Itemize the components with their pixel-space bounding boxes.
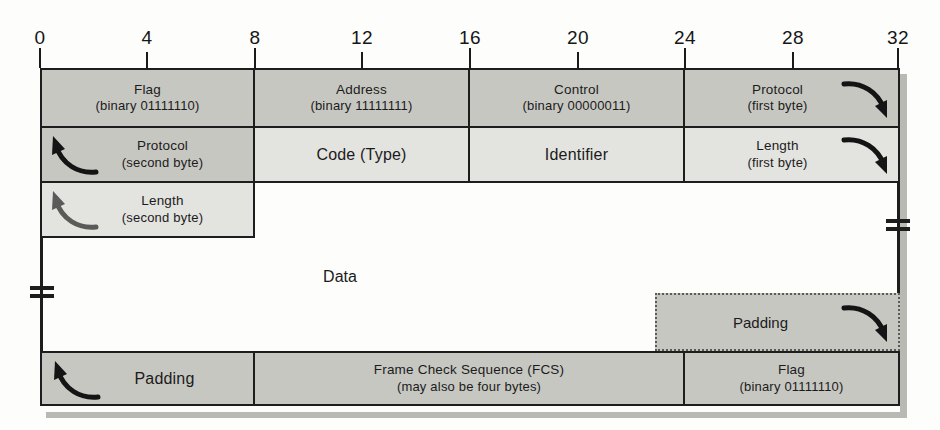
field-label: Code (Type) — [316, 145, 406, 165]
field-label: Address — [336, 82, 387, 98]
field-label: Frame Check Sequence (FCS) — [374, 362, 565, 378]
ppp-frame-diagram: 0 4 8 12 16 20 24 28 32 Flag (binary 011… — [0, 0, 940, 430]
field-address: Address (binary 11111111) — [253, 68, 470, 128]
field-padding-last: Padding — [40, 351, 255, 406]
field-control: Control (binary 00000011) — [468, 68, 685, 128]
field-sublabel: (second byte) — [122, 155, 203, 171]
field-padding-dotted: Padding — [655, 293, 900, 351]
field-sublabel: (first byte) — [747, 155, 807, 171]
ruler-tick-20 — [577, 52, 579, 68]
field-protocol-second-byte: Protocol (second byte) — [40, 126, 255, 183]
field-label: Protocol — [747, 82, 807, 98]
field-length-second-byte: Length (second byte) — [40, 181, 255, 238]
ruler-label-24: 24 — [674, 28, 696, 47]
field-label-data: Data — [40, 268, 640, 286]
frame-shadow-right — [900, 74, 907, 418]
field-sublabel: (binary 01111110) — [739, 379, 843, 395]
ruler-tick-12 — [361, 52, 363, 68]
ruler-label-32: 32 — [887, 28, 909, 47]
field-protocol-first-byte: Protocol (first byte) — [683, 68, 900, 128]
ruler-label-8: 8 — [249, 28, 260, 47]
field-sublabel: (first byte) — [747, 98, 807, 114]
field-code-type: Code (Type) — [253, 126, 470, 183]
ruler-label-20: 20 — [567, 28, 589, 47]
field-label: Padding — [134, 369, 194, 389]
field-flag-last: Flag (binary 01111110) — [683, 351, 900, 406]
ruler-tick-28 — [792, 52, 794, 68]
ruler-tick-0 — [39, 48, 41, 68]
field-sublabel: (second byte) — [122, 210, 203, 226]
frame-shadow-bottom — [46, 412, 906, 418]
field-label: Length — [122, 193, 203, 209]
field-label: Flag — [778, 362, 805, 378]
ruler-tick-32 — [897, 48, 899, 68]
field-sublabel: (binary 01111110) — [95, 98, 199, 114]
ruler-label-28: 28 — [782, 28, 804, 47]
field-label: Flag — [134, 82, 161, 98]
ruler-tick-8 — [254, 48, 256, 68]
field-flag-row1: Flag (binary 01111110) — [40, 68, 255, 128]
ruler-label-0: 0 — [34, 28, 45, 47]
ruler-label-4: 4 — [141, 28, 152, 47]
field-label: Length — [747, 138, 807, 154]
field-label: Protocol — [122, 138, 203, 154]
ruler-label-16: 16 — [459, 28, 481, 47]
field-length-first-byte: Length (first byte) — [683, 126, 900, 183]
field-label: Identifier — [545, 145, 608, 165]
ruler-tick-4 — [146, 52, 148, 68]
ruler-tick-24 — [684, 48, 686, 68]
field-label: Control — [554, 82, 599, 98]
field-label: Padding — [733, 314, 788, 331]
ruler-label-12: 12 — [351, 28, 373, 47]
field-identifier: Identifier — [468, 126, 685, 183]
field-fcs: Frame Check Sequence (FCS) (may also be … — [253, 351, 685, 406]
ruler-tick-16 — [469, 48, 471, 68]
field-sublabel: (may also be four bytes) — [397, 379, 541, 395]
field-sublabel: (binary 00000011) — [523, 98, 631, 114]
field-sublabel: (binary 11111111) — [310, 98, 412, 114]
